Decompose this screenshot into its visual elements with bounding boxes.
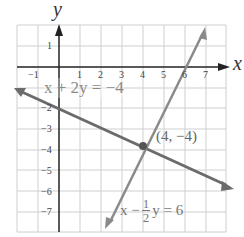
y-tick: −5 <box>41 165 52 176</box>
y-tick: −7 <box>41 206 52 217</box>
fraction: 1 2 <box>142 197 151 224</box>
fraction-denominator: 2 <box>143 211 150 224</box>
y-tick: −3 <box>41 123 52 134</box>
equation-right: y = 6 <box>152 202 183 219</box>
equation-line-2: x − 1 2 y = 6 <box>120 197 183 224</box>
x-tick: 6 <box>182 69 187 80</box>
x-arrow-icon <box>218 63 230 71</box>
y-tick: −4 <box>41 144 52 155</box>
intersection-point <box>139 142 147 150</box>
x-tick: 7 <box>203 69 208 80</box>
arrow-icon <box>221 181 234 191</box>
x-tick: −1 <box>28 69 39 80</box>
x-tick: 5 <box>161 69 166 80</box>
x-axis-label: x <box>233 52 242 75</box>
y-tick: 1 <box>47 40 52 51</box>
y-arrow-icon <box>55 24 63 36</box>
fraction-numerator: 1 <box>142 197 151 211</box>
x-tick: 4 <box>140 69 145 80</box>
y-axis-label: y <box>53 0 62 21</box>
y-tick: −6 <box>41 186 52 197</box>
y-tick: −2 <box>41 102 52 113</box>
intersection-label: (4, −4) <box>156 128 197 145</box>
y-axis <box>55 24 63 232</box>
equation-left: x − <box>120 202 140 219</box>
equation-line-1: x + 2y = −4 <box>44 78 124 98</box>
